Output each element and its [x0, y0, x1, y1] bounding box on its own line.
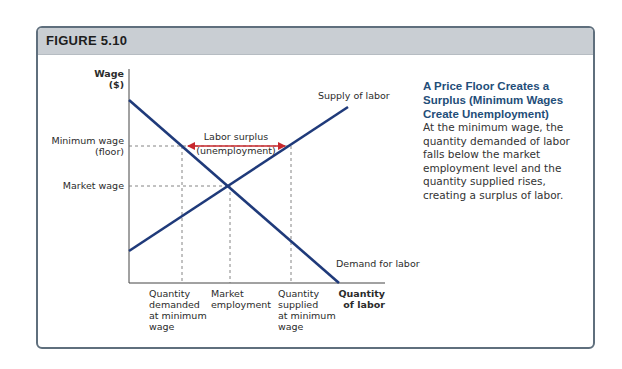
qd-label-3: at minimum: [149, 310, 207, 321]
x-axis-title-2: of labor: [343, 299, 385, 310]
qs-label-3: at minimum: [278, 310, 336, 321]
qs-label-4: wage: [278, 321, 304, 332]
figure-caption: A Price Floor Creates a Surplus (Minimum…: [423, 79, 583, 203]
me-label-2: employment: [211, 299, 271, 310]
y-axis-unit: ($): [109, 79, 124, 90]
supply-label: Supply of labor: [318, 90, 390, 101]
x-axis-title: Quantity: [338, 288, 385, 299]
demand-label: Demand for labor: [336, 258, 420, 269]
figure-frame: FIGURE 5.10 Wage ($) Minimum wage (floor…: [36, 26, 595, 349]
demand-curve: [129, 100, 339, 283]
me-label-1: Market: [211, 288, 244, 299]
surplus-label-sub: (unemployment): [196, 145, 276, 156]
y-axis-title: Wage: [94, 68, 124, 79]
min-wage-label: Minimum wage: [51, 135, 124, 146]
caption-title: A Price Floor Creates a Surplus (Minimum…: [423, 79, 583, 121]
caption-body: At the minimum wage, the quantity demand…: [423, 121, 583, 203]
qs-label-2: supplied: [278, 299, 318, 310]
market-wage-label: Market wage: [63, 180, 124, 191]
qs-label-1: Quantity: [278, 288, 319, 299]
min-wage-label-floor: (floor): [95, 146, 124, 157]
qd-label-2: demanded: [149, 299, 200, 310]
surplus-label: Labor surplus: [204, 131, 268, 142]
qd-label-1: Quantity: [149, 288, 190, 299]
qd-label-4: wage: [149, 321, 175, 332]
